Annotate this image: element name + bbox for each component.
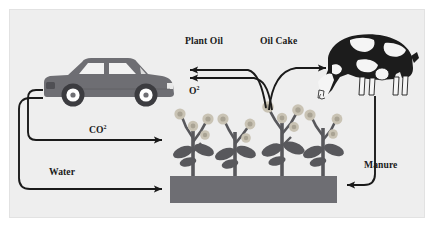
flow-arrow-manure	[347, 96, 375, 185]
flow-arrow-oil-cake	[269, 68, 326, 110]
label-carbon-dioxide: CO2	[89, 125, 107, 135]
label-oxygen: O2	[189, 86, 200, 96]
flow-arrow-water	[19, 98, 162, 189]
soil-bed	[170, 176, 337, 203]
label-plant-oil: Plant Oil	[185, 36, 223, 46]
plant-4	[301, 109, 345, 176]
diagram-canvas: Plant Oil Oil Cake O2 CO2 Water Manure	[9, 9, 425, 218]
car	[44, 58, 174, 107]
plant-3	[260, 101, 307, 176]
plant-1	[171, 108, 215, 176]
label-water: Water	[49, 167, 75, 177]
cow	[318, 34, 419, 99]
label-manure: Manure	[364, 160, 397, 170]
flow-arrow-plant-oil	[190, 70, 266, 108]
diagram-stage: Plant Oil Oil Cake O2 CO2 Water Manure	[0, 0, 434, 231]
label-oil-cake: Oil Cake	[260, 36, 297, 46]
plant-2	[213, 113, 257, 176]
